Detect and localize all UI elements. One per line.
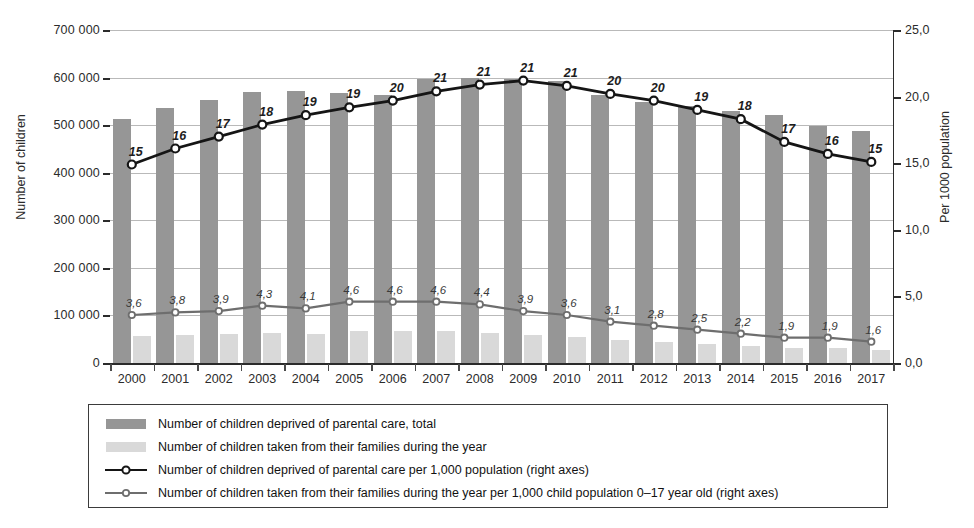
x-axis-tick xyxy=(719,364,721,371)
data-label-rate-taken: 3,6 xyxy=(561,297,577,309)
x-axis-tick-label: 2012 xyxy=(640,372,668,386)
line-marker xyxy=(172,309,178,315)
line-marker xyxy=(476,81,484,89)
x-axis-tick-label: 2017 xyxy=(857,372,885,386)
x-axis-tick-label: 2011 xyxy=(597,372,624,386)
x-axis-tick-label: 2010 xyxy=(553,372,581,386)
x-axis-tick xyxy=(284,364,286,371)
line-marker xyxy=(303,305,309,311)
legend-swatch-taken-icon xyxy=(103,440,149,454)
data-label-rate-total: 15 xyxy=(129,145,143,159)
line-marker xyxy=(650,97,658,105)
line-marker xyxy=(867,158,875,166)
data-label-rate-taken: 4,6 xyxy=(343,284,359,296)
line-marker xyxy=(390,299,396,305)
x-axis-tick-label: 2007 xyxy=(422,372,450,386)
x-axis-tick xyxy=(458,364,460,371)
data-label-rate-total: 21 xyxy=(433,71,447,85)
line-marker xyxy=(129,312,135,318)
data-label-rate-taken: 3,1 xyxy=(604,304,620,316)
data-label-rate-total: 20 xyxy=(390,81,404,95)
y-axis-left-tick xyxy=(103,173,110,175)
data-label-rate-taken: 3,9 xyxy=(213,293,229,305)
legend-label-rate-taken: Number of children taken from their fami… xyxy=(158,486,778,500)
line-marker xyxy=(215,133,223,141)
y-axis-right-tick-label: 0,0 xyxy=(905,356,922,370)
x-axis-tick xyxy=(676,364,678,371)
y-axis-left-tick-label: 200 000 xyxy=(0,261,100,275)
legend-line-light-icon xyxy=(103,486,149,500)
x-axis-tick xyxy=(589,364,591,371)
x-axis-tick xyxy=(502,364,504,371)
data-label-rate-taken: 1,6 xyxy=(865,324,881,336)
data-label-rate-total: 16 xyxy=(172,129,186,143)
line-marker xyxy=(607,319,613,325)
y-axis-right-tick xyxy=(894,97,901,99)
line-marker xyxy=(433,299,439,305)
y-axis-left-tick-label: 600 000 xyxy=(0,71,100,85)
x-axis-tick xyxy=(632,364,634,371)
line-marker xyxy=(519,77,527,85)
data-label-rate-total: 19 xyxy=(694,90,708,104)
legend-item-taken: Number of children taken from their fami… xyxy=(89,435,887,458)
line-path xyxy=(132,302,872,342)
legend-line-dark-icon xyxy=(103,463,149,477)
data-label-rate-total: 15 xyxy=(868,142,882,156)
x-axis-tick-label: 2016 xyxy=(814,372,842,386)
data-label-rate-taken: 3,6 xyxy=(126,297,142,309)
y-axis-left-tick-label: 0 xyxy=(0,356,100,370)
y-axis-right-tick xyxy=(894,230,901,232)
x-axis-tick xyxy=(241,364,243,371)
data-label-rate-total: 16 xyxy=(825,134,839,148)
y-axis-right-tick-label: 5,0 xyxy=(905,289,922,303)
y-axis-right-tick xyxy=(894,30,901,32)
line-marker xyxy=(606,90,614,98)
data-label-rate-total: 17 xyxy=(781,122,795,136)
data-label-rate-total: 21 xyxy=(520,61,534,75)
y-axis-right-tick-label: 10,0 xyxy=(905,223,929,237)
y-axis-left-tick xyxy=(103,315,110,317)
line-marker xyxy=(258,121,266,129)
x-axis-tick-label: 2005 xyxy=(335,372,363,386)
line-marker xyxy=(259,303,265,309)
y-axis-right-tick xyxy=(894,296,901,298)
x-axis-tick-label: 2001 xyxy=(161,372,189,386)
data-label-rate-taken: 3,9 xyxy=(517,293,533,305)
line-marker xyxy=(738,331,744,337)
y-axis-left-tick xyxy=(103,125,110,127)
plot-area: 1516171819192021212121202019181716153,63… xyxy=(110,30,893,363)
x-axis-tick xyxy=(110,364,112,371)
y-axis-left-tick-label: 400 000 xyxy=(0,166,100,180)
data-label-rate-taken: 4,6 xyxy=(387,284,403,296)
y-axis-left-tick xyxy=(103,78,110,80)
line-marker xyxy=(171,145,179,153)
x-axis-tick xyxy=(806,364,808,371)
y-axis-left-tick-label: 700 000 xyxy=(0,23,100,37)
line-marker xyxy=(564,312,570,318)
x-axis-tick-label: 2009 xyxy=(509,372,537,386)
legend-label-rate-total: Number of children deprived of parental … xyxy=(158,463,589,477)
data-label-rate-taken: 2,2 xyxy=(735,316,751,328)
y-axis-right-tick xyxy=(894,163,901,165)
legend-item-rate-taken: Number of children taken from their fami… xyxy=(89,481,887,504)
line-marker xyxy=(432,87,440,95)
line-marker xyxy=(693,106,701,114)
line-marker xyxy=(781,335,787,341)
data-label-rate-taken: 1,9 xyxy=(778,320,794,332)
line-marker xyxy=(477,301,483,307)
y-axis-title-right: Per 1000 population xyxy=(938,42,952,292)
data-label-rate-taken: 4,1 xyxy=(300,290,316,302)
x-axis-tick-label: 2004 xyxy=(292,372,320,386)
data-label-rate-total: 18 xyxy=(259,105,273,119)
x-axis-tick xyxy=(545,364,547,371)
line-marker xyxy=(737,115,745,123)
line-marker xyxy=(216,308,222,314)
data-label-rate-total: 21 xyxy=(564,66,578,80)
data-label-rate-taken: 2,5 xyxy=(691,312,707,324)
x-axis-tick xyxy=(850,364,852,371)
line-marker xyxy=(520,308,526,314)
x-axis-tick-label: 2006 xyxy=(379,372,407,386)
line-marker xyxy=(302,111,310,119)
y-axis-right-tick-label: 25,0 xyxy=(905,23,929,37)
y-axis-left-tick xyxy=(103,363,110,365)
